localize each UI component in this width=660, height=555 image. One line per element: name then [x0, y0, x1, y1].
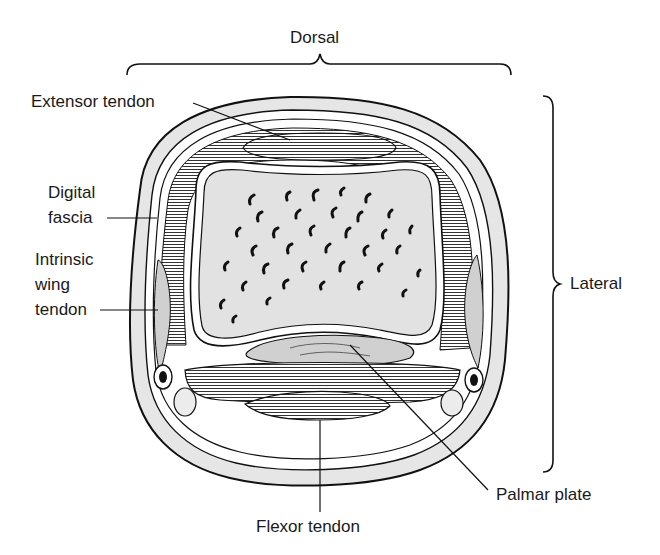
- label-dorsal: Dorsal: [290, 28, 339, 48]
- digital-nerve-left: [174, 388, 196, 416]
- label-flexor-tendon: Flexor tendon: [256, 517, 360, 537]
- dorsal-brace: [127, 54, 511, 75]
- digital-nerve-right: [441, 390, 463, 416]
- digital-artery-right-lumen: [470, 374, 478, 386]
- extensor-tendon: [243, 133, 396, 160]
- label-digital-fascia-line1: Digital: [48, 183, 95, 203]
- label-lateral: Lateral: [570, 274, 622, 294]
- label-intrinsic-wing-tendon-line3: tendon: [35, 300, 87, 320]
- label-intrinsic-wing-tendon-line2: wing: [35, 275, 70, 295]
- label-digital-fascia-line2: fascia: [48, 208, 92, 228]
- digital-artery-left-lumen: [159, 371, 167, 383]
- phalanx-bone-inner: [199, 170, 436, 339]
- label-palmar-plate: Palmar plate: [496, 485, 591, 505]
- digit-cross-section-diagram: [0, 0, 660, 555]
- label-extensor-tendon: Extensor tendon: [31, 92, 155, 112]
- lateral-brace: [543, 96, 560, 472]
- label-intrinsic-wing-tendon-line1: Intrinsic: [35, 250, 94, 270]
